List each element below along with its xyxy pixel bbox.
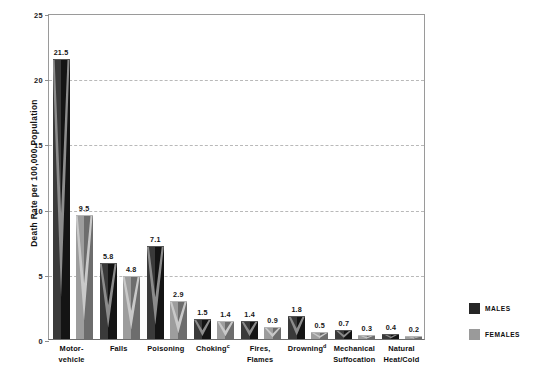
legend-swatch: [469, 303, 480, 314]
bar-males-wrap: 0.4: [382, 15, 399, 339]
bar-value-label: 7.1: [150, 235, 161, 244]
y-tick-label: 5: [38, 271, 43, 280]
bar-females-wrap: 1.4: [217, 15, 234, 339]
bar-value-label: 0.4: [386, 323, 397, 332]
bar-top-edge: [217, 321, 234, 322]
bar-top-edge: [170, 301, 187, 302]
bar-group: 1.51.4: [190, 15, 237, 339]
footnote-marker: d: [323, 343, 326, 349]
bar-males[interactable]: 0.4: [382, 334, 399, 339]
bar-top-edge: [382, 334, 399, 335]
x-axis-label: Poisoning: [142, 344, 189, 355]
bar-top-edge: [100, 263, 117, 264]
bar-value-label: 0.7: [339, 319, 350, 328]
bar-females[interactable]: 2.9: [170, 301, 187, 339]
x-axis-label: Motor-vehicle: [48, 344, 95, 365]
bar-females[interactable]: 0.3: [358, 335, 375, 339]
bar-females[interactable]: 9.5: [76, 215, 93, 339]
bar-group: 7.12.9: [143, 15, 190, 339]
plot-area: 0510152025 21.59.55.84.87.12.91.51.41.40…: [48, 14, 425, 340]
footnote-marker: c: [227, 343, 230, 349]
legend-swatch: [469, 329, 480, 340]
bar-females[interactable]: 1.4: [217, 321, 234, 339]
bar-males[interactable]: 0.7: [335, 330, 352, 339]
bar-males-wrap: 21.5: [53, 15, 70, 339]
bar-top-edge: [358, 335, 375, 336]
bar-females-wrap: 0.3: [358, 15, 375, 339]
bar-top-edge: [241, 321, 258, 322]
x-axis-label: Chokingc: [189, 344, 236, 355]
bar-females-wrap: 2.9: [170, 15, 187, 339]
bar-top-edge: [194, 319, 211, 320]
legend-label: MALES: [485, 305, 511, 312]
bar-value-label: 4.8: [126, 265, 137, 274]
bar-group: 0.70.3: [332, 15, 379, 339]
bar-females-wrap: 0.9: [264, 15, 281, 339]
x-axis-label: Falls: [95, 344, 142, 355]
x-axis-label-line: Mechanical: [331, 344, 378, 355]
y-tick-label: 0: [38, 337, 43, 346]
bar-females[interactable]: 0.5: [311, 332, 328, 339]
x-axis-label-line: Heat/Cold: [378, 355, 425, 366]
bar-value-label: 1.4: [220, 310, 231, 319]
bar-group: 0.40.2: [379, 15, 426, 339]
legend-item-males[interactable]: MALES: [469, 303, 533, 314]
x-axis-label-line: Falls: [95, 344, 142, 355]
bar-males-wrap: 1.4: [241, 15, 258, 339]
x-axis-label: NaturalHeat/Cold: [378, 344, 425, 365]
y-tick-label: 10: [34, 206, 43, 215]
x-axis-label: Fires,Flames: [237, 344, 284, 365]
x-axis-label-line: Poisoning: [142, 344, 189, 355]
bar-group: 1.80.5: [285, 15, 332, 339]
bar-females-wrap: 4.8: [123, 15, 140, 339]
bar-value-label: 0.2: [409, 325, 420, 334]
y-tick-mark: [45, 341, 49, 342]
x-axis-label-line: Suffocation: [331, 355, 378, 366]
bar-value-label: 2.9: [173, 290, 184, 299]
chart-figure: Death Rate per 100,000 Population 051015…: [0, 0, 533, 387]
bar-males[interactable]: 7.1: [147, 246, 164, 339]
bar-males[interactable]: 21.5: [53, 59, 70, 339]
bar-males[interactable]: 1.5: [194, 319, 211, 339]
bar-top-edge: [123, 276, 140, 277]
x-axis-labels: Motor-vehicleFallsPoisoningChokingcFires…: [48, 344, 425, 384]
bar-females[interactable]: 0.2: [405, 336, 422, 339]
bar-males-wrap: 7.1: [147, 15, 164, 339]
bar-males-wrap: 1.5: [194, 15, 211, 339]
x-axis-label: Drowningd: [284, 344, 331, 355]
bar-value-label: 1.8: [291, 305, 302, 314]
bar-top-edge: [288, 316, 305, 317]
legend-item-females[interactable]: FEMALES: [469, 329, 533, 340]
chart-legend: MALESFEMALES: [469, 303, 533, 355]
bar-males[interactable]: 1.4: [241, 321, 258, 339]
x-axis-label-line: vehicle: [48, 355, 95, 366]
x-axis-label-line: Chokingc: [189, 344, 236, 355]
bars-layer: 21.59.55.84.87.12.91.51.41.40.91.80.50.7…: [49, 15, 424, 339]
bar-top-edge: [311, 332, 328, 333]
bar-females-wrap: 9.5: [76, 15, 93, 339]
bar-females-wrap: 0.2: [405, 15, 422, 339]
x-axis-label-line: Drowningd: [284, 344, 331, 355]
bar-males-wrap: 1.8: [288, 15, 305, 339]
x-axis-label-line: Fires,: [237, 344, 284, 355]
y-tick-label: 15: [34, 141, 43, 150]
bar-males-wrap: 5.8: [100, 15, 117, 339]
bar-top-edge: [53, 59, 70, 60]
bar-males[interactable]: 1.8: [288, 316, 305, 339]
bar-value-label: 0.9: [267, 316, 278, 325]
bar-females[interactable]: 4.8: [123, 276, 140, 339]
bar-top-edge: [405, 336, 422, 337]
bar-value-label: 0.5: [314, 321, 325, 330]
bar-top-edge: [76, 215, 93, 216]
x-axis-label-line: Flames: [237, 355, 284, 366]
bar-males[interactable]: 5.8: [100, 263, 117, 339]
bar-males-wrap: 0.7: [335, 15, 352, 339]
bar-top-edge: [264, 327, 281, 328]
bar-value-label: 1.5: [197, 308, 208, 317]
y-tick-label: 25: [34, 11, 43, 20]
bar-females[interactable]: 0.9: [264, 327, 281, 339]
bar-top-edge: [147, 246, 164, 247]
bar-value-label: 5.8: [103, 252, 114, 261]
legend-label: FEMALES: [485, 331, 520, 338]
bar-value-label: 21.5: [54, 48, 69, 57]
